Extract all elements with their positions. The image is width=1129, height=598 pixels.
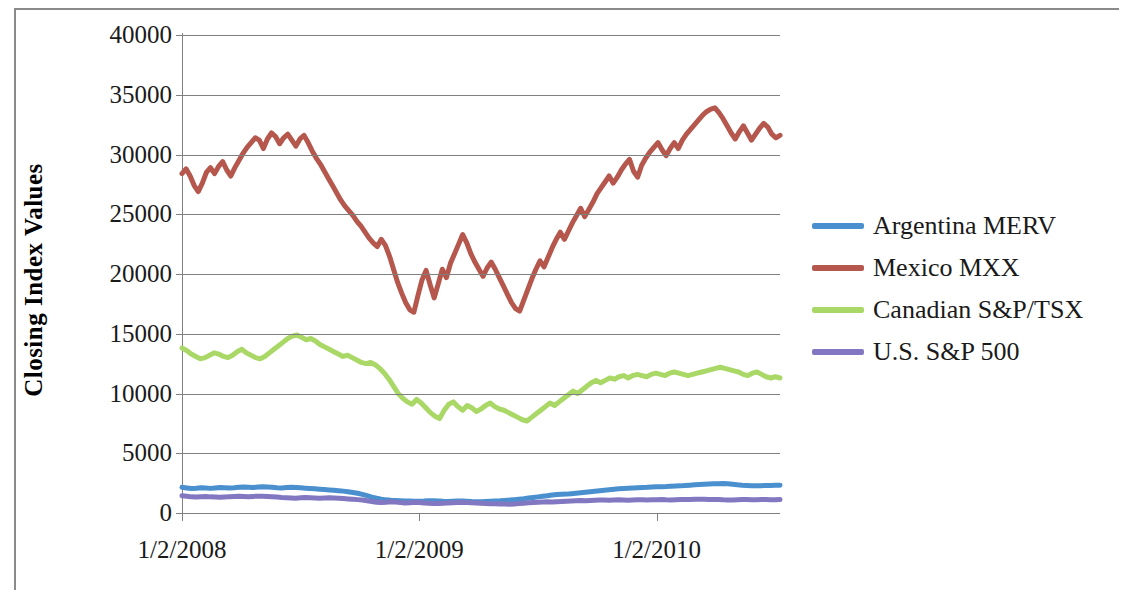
legend-color-swatch [812,223,864,229]
y-axis-tick-label: 20000 [110,261,173,286]
gridline [182,274,780,275]
series-line [182,108,780,312]
legend-color-swatch [812,307,864,313]
legend-item-label: Mexico MXX [873,253,1020,283]
y-axis-tick-label: 10000 [110,381,173,406]
gridline [182,394,780,395]
y-axis-tick [176,453,182,454]
y-axis-tick [176,214,182,215]
y-axis-tick [176,95,182,96]
gridline [182,214,780,215]
x-axis-tick [419,514,420,521]
y-axis-tick [176,155,182,156]
y-axis-tick-label: 5000 [122,440,172,465]
x-axis-tick-label: 1/2/2010 [577,536,737,564]
chart-legend: Argentina MERVMexico MXXCanadian S&P/TSX… [812,205,1122,373]
y-axis-tick-label: 35000 [110,82,173,107]
gridline [182,155,780,156]
gridline [182,35,780,36]
x-axis-tick [182,514,183,521]
legend-item-label: Canadian S&P/TSX [873,295,1083,325]
legend-item[interactable]: Argentina MERV [812,205,1122,247]
gridline [182,95,780,96]
gridline [182,453,780,454]
y-axis-tick-label: 30000 [110,142,173,167]
y-axis-tick-label: 15000 [110,321,173,346]
legend-item-label: U.S. S&P 500 [873,337,1019,367]
y-axis-tick-label: 25000 [110,201,173,226]
chart-figure: Closing Index Values 0500010000150002000… [0,0,1129,598]
legend-item-label: Argentina MERV [873,211,1056,241]
legend-item[interactable]: Mexico MXX [812,247,1122,289]
y-axis-tick [176,334,182,335]
x-axis-tick-label: 1/2/2008 [102,536,262,564]
y-axis-tick-label: 0 [160,500,173,525]
y-axis-tick [176,35,182,36]
gridline [182,513,780,514]
figure-border-top [14,8,1119,10]
y-axis-tick-label: 40000 [110,22,173,47]
legend-color-swatch [812,265,864,271]
legend-item[interactable]: U.S. S&P 500 [812,331,1122,373]
series-line [182,335,780,421]
gridline [182,334,780,335]
x-axis-tick-label: 1/2/2009 [339,536,499,564]
legend-item[interactable]: Canadian S&P/TSX [812,289,1122,331]
plot-area [182,35,780,513]
y-axis-tick-labels: 0500010000150002000025000300003500040000 [0,0,172,598]
y-axis-tick [176,274,182,275]
x-axis-tick [657,514,658,521]
y-axis-tick [176,394,182,395]
legend-color-swatch [812,349,864,355]
